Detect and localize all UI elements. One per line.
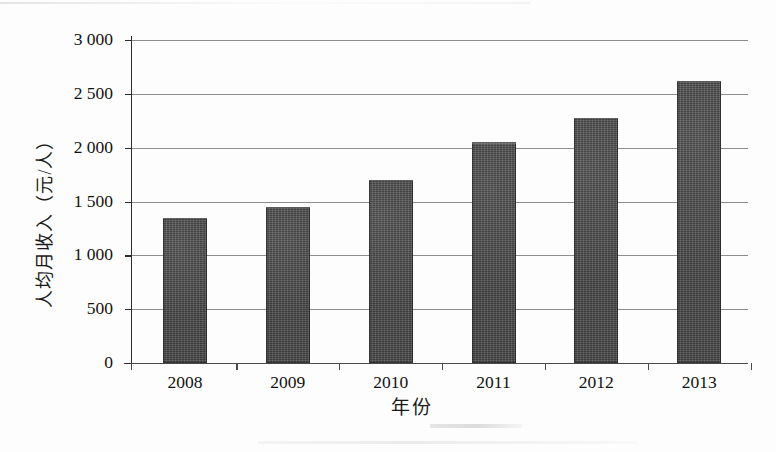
bar-top-highlight	[266, 207, 310, 209]
y-axis-tick	[125, 40, 132, 41]
x-axis-line	[124, 363, 748, 364]
bar-2008	[163, 218, 207, 363]
y-axis-tick	[125, 309, 132, 310]
y-axis-tick	[125, 202, 132, 203]
x-axis-tick-label-2011: 2011	[449, 372, 539, 393]
bar-2013	[677, 81, 721, 363]
x-axis-tick	[545, 363, 546, 370]
y-axis-tick-label: 0	[43, 352, 113, 373]
bar-top-highlight	[574, 118, 618, 120]
gridline	[131, 40, 748, 41]
x-axis-tick	[236, 363, 237, 370]
y-axis-tick-label: 3 000	[43, 29, 113, 50]
x-axis-title-label: 年份	[391, 397, 433, 418]
bar-top-highlight	[472, 142, 516, 144]
y-axis-tick-label: 2 000	[43, 137, 113, 158]
x-axis-tick	[751, 363, 752, 370]
bar-top-highlight	[163, 218, 207, 220]
plot-area: 05001 0001 5002 0002 5003 00020082009201…	[131, 40, 748, 363]
y-axis-tick	[125, 94, 132, 95]
x-axis-tick-label-2009: 2009	[243, 372, 333, 393]
x-axis-title: 年份	[0, 392, 776, 419]
bar-top-highlight	[677, 81, 721, 83]
scan-artifact-bottom-edge	[258, 441, 638, 444]
y-axis-tick-label: 500	[43, 298, 113, 319]
x-axis-tick-origin	[131, 363, 132, 370]
x-axis-tick	[442, 363, 443, 370]
x-axis-tick-label-2008: 2008	[140, 372, 230, 393]
y-axis-tick	[125, 148, 132, 149]
gridline	[131, 94, 748, 95]
gridline	[131, 309, 748, 310]
bar-top-highlight	[369, 180, 413, 182]
bar-2010	[369, 180, 413, 363]
x-axis-tick-label-2012: 2012	[551, 372, 641, 393]
y-axis-tick	[125, 255, 132, 256]
y-axis-tick-label: 1 500	[43, 191, 113, 212]
bar-2009	[266, 207, 310, 363]
x-axis-tick-label-2010: 2010	[346, 372, 436, 393]
x-axis-tick	[339, 363, 340, 370]
x-axis-tick-label-2013: 2013	[654, 372, 744, 393]
gridline	[131, 255, 748, 256]
y-axis-tick-label: 2 500	[43, 83, 113, 104]
bar-chart: 人均月收入（元/人） 05001 0001 5002 0002 5003 000…	[0, 0, 776, 452]
scan-artifact-caption-fragment	[430, 424, 522, 428]
scan-artifact-top-edge	[0, 2, 530, 4]
gridline	[131, 202, 748, 203]
x-axis-tick	[648, 363, 649, 370]
gridline	[131, 148, 748, 149]
bar-2012	[574, 118, 618, 363]
y-axis-tick-label: 1 000	[43, 244, 113, 265]
bar-2011	[472, 142, 516, 363]
